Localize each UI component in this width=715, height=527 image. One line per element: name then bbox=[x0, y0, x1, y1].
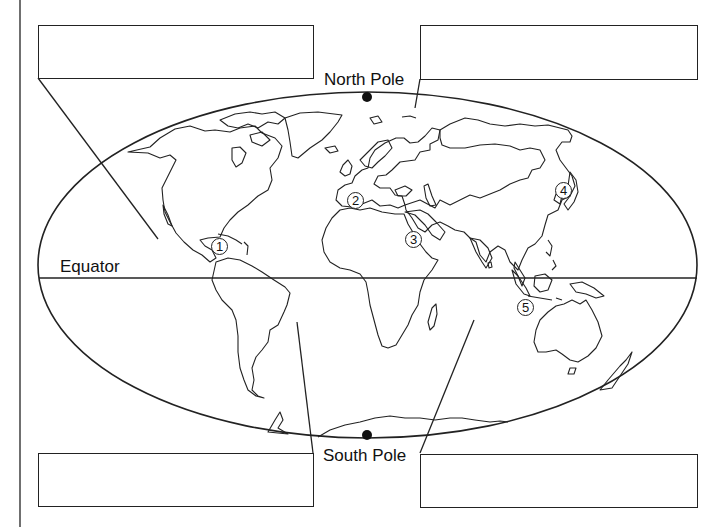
iceland bbox=[325, 146, 338, 153]
svalbard bbox=[370, 116, 382, 124]
black-sea bbox=[395, 186, 412, 196]
indonesia-borneo bbox=[534, 274, 552, 292]
north-pole-dot bbox=[362, 92, 372, 102]
marker-5: 5 bbox=[517, 299, 534, 316]
north-pole-label: North Pole bbox=[324, 71, 404, 88]
marker-2: 2 bbox=[347, 192, 364, 209]
sri-lanka bbox=[488, 262, 492, 268]
answer-box-bottom-left[interactable] bbox=[38, 453, 314, 507]
continent-australia bbox=[534, 300, 602, 362]
world-map-worksheet: North Pole South Pole Equator 1 2 3 4 5 bbox=[0, 0, 715, 527]
hudson-bay bbox=[232, 147, 246, 167]
south-pole-dot bbox=[362, 430, 372, 440]
franz-josef-land bbox=[402, 116, 416, 118]
answer-box-top-right[interactable] bbox=[420, 25, 698, 80]
philippines bbox=[546, 240, 556, 270]
leader-line-bottom-left bbox=[297, 322, 313, 453]
marker-4: 4 bbox=[555, 182, 572, 199]
equator-label: Equator bbox=[60, 258, 120, 275]
leader-line-top-left bbox=[38, 78, 158, 239]
map-outline-ellipse bbox=[38, 92, 697, 438]
south-pole-label: South Pole bbox=[323, 447, 406, 464]
marker-1: 1 bbox=[211, 238, 228, 255]
continent-antarctica bbox=[318, 416, 508, 437]
continent-greenland bbox=[285, 112, 342, 158]
marker-3: 3 bbox=[405, 231, 422, 248]
british-isles bbox=[340, 160, 352, 176]
india bbox=[470, 238, 492, 268]
continent-north-america bbox=[128, 126, 282, 262]
baja bbox=[163, 205, 172, 226]
tasmania bbox=[568, 368, 576, 374]
new-guinea bbox=[570, 282, 604, 298]
scandinavia bbox=[360, 140, 392, 168]
answer-box-bottom-right[interactable] bbox=[420, 454, 698, 508]
continent-asia bbox=[405, 118, 575, 270]
canadian-arctic-islands bbox=[220, 112, 285, 146]
indonesia-java bbox=[528, 296, 562, 300]
continent-south-america bbox=[212, 258, 290, 398]
answer-box-top-left[interactable] bbox=[38, 25, 314, 79]
madagascar bbox=[428, 304, 437, 330]
